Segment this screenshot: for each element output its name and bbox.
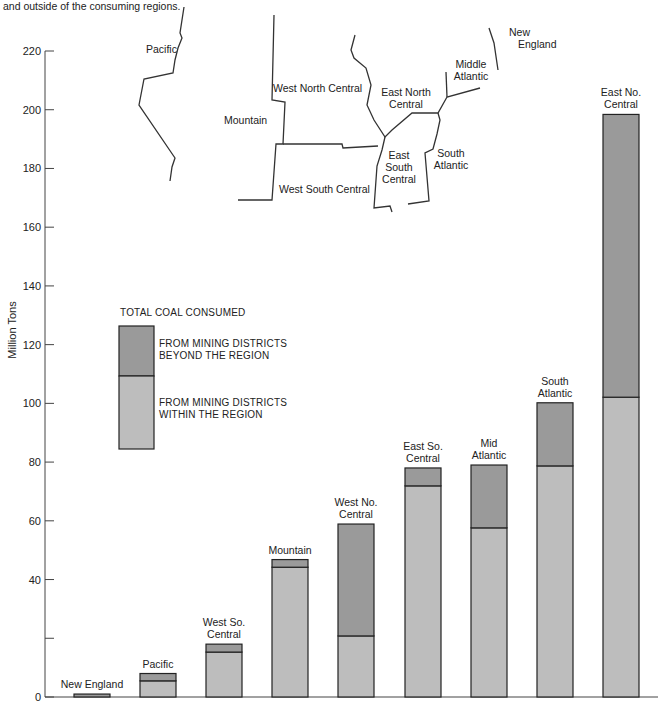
- y-axis-label: Million Tons: [6, 301, 18, 359]
- map-label: Pacific: [146, 43, 177, 55]
- y-tick-label: 0: [35, 691, 41, 703]
- bar-group: [537, 403, 573, 697]
- bar-label: New England: [61, 678, 124, 690]
- map-label: Central: [382, 173, 416, 185]
- y-tick-label: 80: [29, 456, 41, 468]
- bar-within: [603, 397, 639, 697]
- y-tick-label: 200: [23, 104, 41, 116]
- bar-within: [471, 528, 507, 697]
- bar-beyond: [603, 114, 639, 397]
- bar-within: [206, 652, 242, 697]
- map-border-ne: [489, 28, 498, 70]
- map-label: South: [385, 161, 413, 173]
- map-label: Central: [389, 98, 423, 110]
- map-label: West North Central: [273, 82, 362, 94]
- bar-label: Central: [207, 628, 241, 640]
- legend-within-line1: FROM MINING DISTRICTS: [159, 397, 287, 408]
- map-label: Atlantic: [434, 159, 468, 171]
- map-label: South: [437, 147, 465, 159]
- map-label: Middle: [456, 58, 487, 70]
- map-border-pacific: [139, 7, 184, 181]
- map-label: East: [388, 149, 409, 161]
- region-map: [139, 7, 498, 212]
- bar-label: Mid: [481, 437, 498, 449]
- map-border-wsc: [283, 144, 378, 148]
- bar-group: [603, 114, 639, 697]
- bar-within: [537, 466, 573, 697]
- bar-label: West No.: [335, 496, 378, 508]
- bar-label: East So.: [403, 440, 443, 452]
- map-label: New: [509, 26, 530, 38]
- legend-title: TOTAL COAL CONSUMED: [120, 307, 246, 318]
- bar-beyond: [537, 403, 573, 466]
- map-label: England: [518, 38, 557, 50]
- map-border-ma: [446, 72, 447, 97]
- bar-label: South: [541, 375, 569, 387]
- y-tick-label: 160: [23, 221, 41, 233]
- bar-group: [74, 694, 110, 697]
- bar-group: [338, 524, 374, 697]
- legend-swatch-beyond: [119, 326, 154, 376]
- bar-beyond: [74, 694, 110, 697]
- bar-label: Atlantic: [538, 387, 572, 399]
- bar-label: Pacific: [143, 658, 174, 670]
- bar-label: East No.: [601, 86, 641, 98]
- y-tick-label: 60: [29, 515, 41, 527]
- caption: and outside of the consuming regions.: [3, 0, 180, 12]
- legend: TOTAL COAL CONSUMED FROM MINING DISTRICT…: [119, 307, 287, 449]
- bar-label: Mountain: [268, 544, 311, 556]
- map-label: Atlantic: [454, 70, 488, 82]
- bar-group: [471, 465, 507, 697]
- y-tick-label: 180: [23, 162, 41, 174]
- y-tick-label: 40: [29, 574, 41, 586]
- bar-group: [140, 674, 176, 697]
- y-tick-label: 100: [23, 397, 41, 409]
- map-label: West South Central: [279, 183, 370, 195]
- bar-within: [405, 486, 441, 697]
- bar-label: Atlantic: [472, 449, 506, 461]
- bar-group: [206, 644, 242, 697]
- map-label: Mountain: [224, 114, 267, 126]
- legend-within-line2: WITHIN THE REGION: [159, 409, 263, 420]
- bar-within: [140, 681, 176, 697]
- coal-consumption-chart: and outside of the consuming regions. Pa…: [0, 0, 661, 705]
- bar-group: [272, 560, 308, 697]
- bar-within: [272, 567, 308, 697]
- bar-beyond: [206, 644, 242, 652]
- bar-beyond: [405, 468, 441, 486]
- legend-swatch-within: [119, 376, 154, 449]
- bar-label: Central: [604, 98, 638, 110]
- bar-group: [405, 468, 441, 697]
- map-label: East North: [381, 86, 431, 98]
- bar-beyond: [272, 560, 308, 568]
- y-tick-label: 120: [23, 339, 41, 351]
- bar-within: [338, 636, 374, 697]
- bar-beyond: [471, 465, 507, 528]
- map-border-wnc: [238, 15, 285, 200]
- bar-label: West So.: [203, 616, 245, 628]
- bar-beyond: [338, 524, 374, 636]
- legend-beyond-line2: BEYOND THE REGION: [159, 350, 269, 361]
- bar-label: Central: [406, 452, 440, 464]
- bar-label: Central: [339, 508, 373, 520]
- y-tick-label: 220: [23, 45, 41, 57]
- bar-beyond: [140, 674, 176, 681]
- legend-beyond-line1: FROM MINING DISTRICTS: [159, 338, 287, 349]
- y-tick-label: 140: [23, 280, 41, 292]
